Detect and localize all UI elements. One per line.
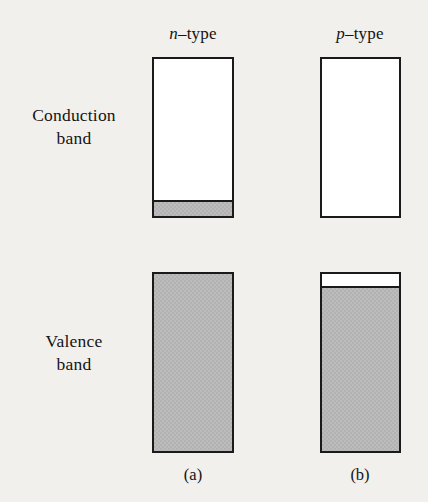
conduction-band-box-n-type xyxy=(152,57,234,218)
row-label-conduction-band: Conduction band xyxy=(4,104,144,150)
column-header-n-word: type xyxy=(187,24,217,43)
valence-band-electron-fill-n-type xyxy=(154,274,232,451)
row-label-valence-line1: Valence xyxy=(4,330,144,353)
row-label-valence-line2: band xyxy=(4,353,144,376)
valence-band-box-p-type xyxy=(320,272,401,453)
subfigure-caption-b: (b) xyxy=(300,465,420,485)
row-label-conduction-line2: band xyxy=(4,127,144,150)
row-label-valence-band: Valence band xyxy=(4,330,144,376)
column-header-n-symbol: n xyxy=(169,24,178,43)
column-header-p-symbol: p xyxy=(336,24,345,43)
row-label-conduction-line1: Conduction xyxy=(4,104,144,127)
valence-band-electron-fill-p-type xyxy=(322,286,399,451)
column-header-n-separator: – xyxy=(178,24,187,43)
conduction-band-electron-fill-n-type xyxy=(154,200,232,216)
column-header-p-word: type xyxy=(354,24,384,43)
column-header-n-type: n–type xyxy=(133,24,253,44)
band-diagram-figure: n–type p–type Conduction band Valence ba… xyxy=(0,0,428,502)
column-header-p-separator: – xyxy=(345,24,354,43)
valence-band-box-n-type xyxy=(152,272,234,453)
column-header-p-type: p–type xyxy=(300,24,420,44)
conduction-band-box-p-type xyxy=(320,57,401,218)
subfigure-caption-a: (a) xyxy=(133,465,253,485)
